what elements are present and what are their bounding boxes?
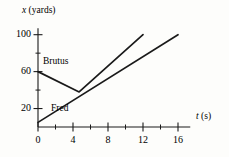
y-axis-variable: x — [22, 5, 26, 15]
x-tick-label: 0 — [28, 135, 48, 145]
y-tick-label: 20 — [5, 103, 31, 113]
x-tick-label: 16 — [168, 135, 188, 145]
x-tick-label: 12 — [133, 135, 153, 145]
x-tick-label: 4 — [63, 135, 83, 145]
series-label-brutus: Brutus — [43, 57, 68, 67]
x-axis-variable: t — [196, 111, 199, 121]
series-label-fred: Fred — [51, 104, 68, 114]
x-axis-title: t (s) — [196, 112, 211, 122]
y-axis-units: (yards) — [29, 5, 56, 15]
chart-figure: x (yards) t (s) Brutus Fred 206010004812… — [0, 0, 229, 157]
y-tick-label: 100 — [5, 29, 31, 39]
y-axis-title: x (yards) — [22, 6, 56, 16]
x-tick-label: 8 — [98, 135, 118, 145]
plot-canvas — [0, 0, 229, 157]
y-tick-label: 60 — [5, 66, 31, 76]
x-axis-units: (s) — [201, 111, 211, 121]
